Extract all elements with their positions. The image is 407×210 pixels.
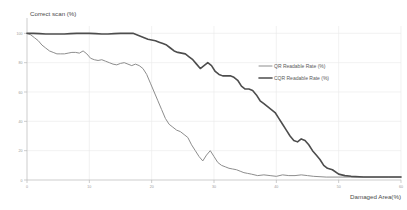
x-tick-label: 60 xyxy=(399,185,403,189)
legend: QR Readable Rate (%)CQR Readable Rate (%… xyxy=(259,63,329,81)
x-tick-label: 20 xyxy=(150,185,154,189)
y-tick-label: 0 xyxy=(21,179,23,183)
x-tick-label: 30 xyxy=(212,185,216,189)
line-chart: 0102030405060020406080100 Correct scan (… xyxy=(0,0,407,210)
x-tick-label: 50 xyxy=(337,185,341,189)
x-tick-label: 0 xyxy=(26,185,28,189)
y-tick-label: 40 xyxy=(19,120,23,124)
chart-title: Correct scan (%) xyxy=(30,10,76,17)
chart-container: 0102030405060020406080100 Correct scan (… xyxy=(0,0,407,210)
legend-label: QR Readable Rate (%) xyxy=(274,63,326,69)
axis-layer xyxy=(24,18,401,183)
y-tick-label: 100 xyxy=(17,32,23,36)
tick-label-layer: 0102030405060020406080100 xyxy=(17,32,404,189)
x-axis-title: Damaged Area(%) xyxy=(350,193,401,200)
legend-label: CQR Readable Rate (%) xyxy=(274,75,329,81)
x-tick-label: 10 xyxy=(87,185,91,189)
y-tick-label: 20 xyxy=(19,149,23,153)
x-tick-label: 40 xyxy=(274,185,278,189)
y-tick-label: 80 xyxy=(19,61,23,65)
y-tick-label: 60 xyxy=(19,91,23,95)
